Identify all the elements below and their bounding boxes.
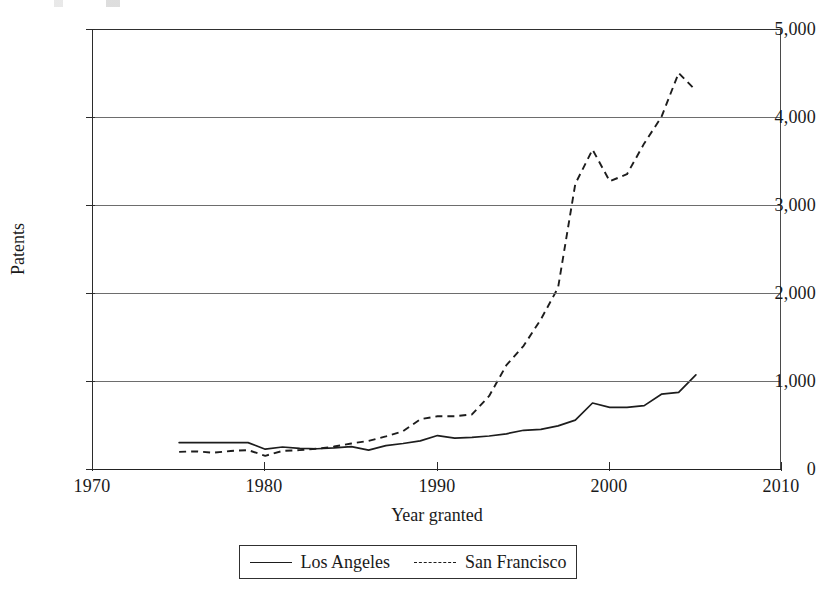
legend-label-san-francisco: San Francisco (465, 552, 566, 573)
x-tick-label-1980: 1980 (219, 476, 309, 497)
y-tick-label-5000: 5,000 (742, 20, 816, 38)
patents-line-chart-figure: 5,000 4,000 3,000 2,000 1,000 0 1970 198… (0, 0, 816, 592)
y-tick-0 (86, 469, 95, 470)
x-tick-1970 (92, 462, 93, 471)
y-tick-5000 (86, 29, 95, 30)
series-line-los-angeles (179, 375, 696, 450)
gridline-1000 (93, 381, 780, 382)
y-tick-4000 (86, 117, 95, 118)
x-tick-label-1990: 1990 (392, 476, 482, 497)
y-axis-title: Patents (8, 29, 38, 469)
y-tick-3000 (86, 205, 95, 206)
x-tick-1980 (264, 462, 265, 471)
gridline-3000 (93, 205, 780, 206)
y-tick-2000 (86, 293, 95, 294)
legend-label-los-angeles: Los Angeles (301, 552, 391, 573)
series-line-san-francisco (179, 73, 696, 456)
x-tick-label-1970: 1970 (47, 476, 137, 497)
legend-entry-los-angeles: Los Angeles (250, 552, 391, 573)
plot-area (92, 29, 781, 469)
scan-artifact (54, 0, 234, 7)
data-series-layer (93, 29, 782, 469)
y-tick-label-1000: 1,000 (742, 372, 816, 390)
x-tick-2000 (609, 462, 610, 471)
x-tick-1990 (437, 462, 438, 471)
x-axis-title: Year granted (92, 505, 782, 526)
gridline-4000 (93, 117, 780, 118)
legend-line-dashed-icon (414, 562, 456, 563)
gridline-5000 (93, 29, 780, 30)
legend-line-solid-icon (250, 562, 292, 563)
y-tick-label-4000: 4,000 (742, 108, 816, 126)
chart-legend: Los Angeles San Francisco (239, 545, 577, 579)
y-tick-label-2000: 2,000 (742, 284, 816, 302)
x-tick-2010 (781, 462, 782, 471)
gridline-2000 (93, 293, 780, 294)
legend-entry-san-francisco: San Francisco (414, 552, 566, 573)
y-tick-1000 (86, 381, 95, 382)
x-tick-label-2010: 2010 (736, 476, 816, 497)
x-tick-label-2000: 2000 (564, 476, 654, 497)
y-tick-label-3000: 3,000 (742, 196, 816, 214)
